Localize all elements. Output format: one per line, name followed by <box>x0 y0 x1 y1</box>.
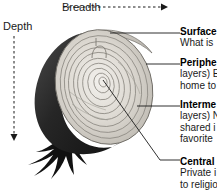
diagram-canvas: Breadth Depth <box>0 0 217 194</box>
label-surface-title: Surface <box>180 26 217 37</box>
label-peripheral-line-2: home to <box>180 80 217 92</box>
label-peripheral-title: Periphe <box>180 57 217 68</box>
label-surface-line-1: What is <box>180 37 217 49</box>
label-intermediate-title: Interme <box>180 99 217 110</box>
label-peripheral-line-1: layers) E <box>180 68 217 80</box>
breadth-arrow <box>63 4 168 11</box>
depth-arrow <box>11 36 18 141</box>
label-surface: Surface What is <box>180 26 217 49</box>
label-central-title: Central <box>180 156 217 167</box>
label-intermediate-line-3: favorite <box>180 133 217 145</box>
label-intermediate-line-1: layers) N <box>180 110 217 122</box>
label-intermediate: Interme layers) N shared i favorite <box>180 99 217 145</box>
label-column: Surface What is Periphe layers) E home t… <box>180 0 217 194</box>
label-peripheral: Periphe layers) E home to <box>180 57 217 91</box>
label-central-line-1: Private i <box>180 167 217 179</box>
label-central: Central Private i to religio <box>180 156 217 190</box>
label-central-line-2: to religio <box>180 179 217 191</box>
label-intermediate-line-2: shared i <box>180 122 217 134</box>
